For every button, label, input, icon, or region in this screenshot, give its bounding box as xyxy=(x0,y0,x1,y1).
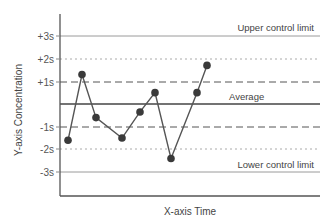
data-point xyxy=(193,89,201,97)
data-point xyxy=(78,71,86,79)
data-point xyxy=(64,137,72,145)
data-point xyxy=(167,155,175,163)
average-label: Average xyxy=(229,91,264,102)
tick-minus-3s: -3s xyxy=(40,167,54,178)
upper-control-limit-label: Upper control limit xyxy=(237,22,314,33)
tick-plus-3s: +3s xyxy=(38,31,54,42)
data-series xyxy=(64,62,211,163)
tick-minus-2s: -2s xyxy=(40,144,54,155)
lower-control-limit-label: Lower control limit xyxy=(237,159,314,170)
data-point xyxy=(92,114,100,122)
tick-minus-1s: -1s xyxy=(40,122,54,133)
data-point xyxy=(136,108,144,116)
data-point xyxy=(203,62,211,70)
y-axis-label: Y-axis Concentration xyxy=(13,64,24,156)
tick-plus-1s: +1s xyxy=(38,77,54,88)
data-point xyxy=(151,89,159,97)
control-chart: +3s +2s +1s -1s -2s -3s Upper control li… xyxy=(0,0,336,222)
x-axis-label: X-axis Time xyxy=(164,206,217,217)
tick-plus-2s: +2s xyxy=(38,54,54,65)
data-point xyxy=(118,134,126,142)
